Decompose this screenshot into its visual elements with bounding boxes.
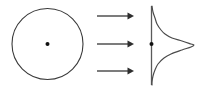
source-circle-group	[12, 9, 83, 80]
profile-curve	[152, 6, 194, 85]
ray-middle-arrow	[97, 40, 134, 47]
center-dot-icon	[46, 42, 50, 46]
projection-profile-group	[150, 6, 195, 85]
ray-bottom-arrowhead-icon	[128, 67, 135, 74]
ray-middle-arrowhead-icon	[128, 40, 135, 47]
ray-top-arrowhead-icon	[128, 12, 135, 19]
ray-bottom-arrow	[97, 67, 134, 74]
profile-center-dot-icon	[150, 42, 154, 46]
projection-rays-group	[97, 12, 134, 74]
ray-top-arrow	[97, 12, 134, 19]
projection-diagram	[0, 0, 204, 92]
diagram-canvas	[0, 0, 204, 92]
